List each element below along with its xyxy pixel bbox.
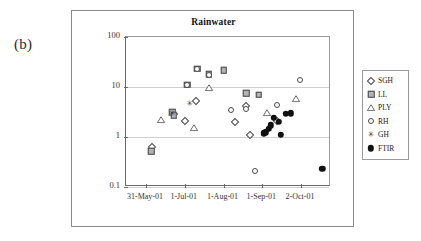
plot-area: ✳✳ (125, 36, 330, 186)
data-point-ll (148, 148, 155, 155)
legend-item-ftir[interactable]: FTIR (366, 142, 406, 156)
x-tick (262, 184, 263, 188)
legend-marker-filled-square-icon (366, 89, 376, 99)
legend-label: GH (378, 130, 389, 139)
legend-label: LL (378, 90, 387, 99)
legend-item-ll[interactable]: LL (366, 88, 406, 102)
data-point-ply (190, 124, 198, 131)
data-point-rh (194, 66, 200, 72)
data-point-rh (228, 107, 234, 113)
legend-item-gh[interactable]: ✳GH (366, 128, 406, 142)
y-tick-label: 1 (80, 131, 120, 140)
y-tick-label: 0.1 (80, 181, 120, 190)
data-point-rh (206, 72, 212, 78)
x-tick (185, 184, 186, 188)
legend-symbol-icon (367, 77, 375, 85)
gridline (126, 137, 329, 138)
gridline (126, 187, 329, 188)
data-point-gh: ✳ (169, 110, 176, 118)
legend-marker-star-icon: ✳ (366, 130, 376, 140)
y-tick-label: 10 (80, 81, 120, 90)
y-tick (124, 87, 128, 88)
y-tick (124, 137, 128, 138)
legend-label: SGH (378, 76, 393, 85)
y-tick (124, 187, 128, 188)
legend-symbol-icon (367, 104, 375, 111)
data-point-rh (184, 82, 190, 88)
data-point-ftir (275, 119, 281, 125)
data-point-rh (252, 168, 258, 174)
chart-title: Rainwater (72, 17, 355, 27)
legend-item-ply[interactable]: PLY (366, 101, 406, 115)
gridline (126, 87, 329, 88)
y-axis-title: (HCl/SO₂) mass ratio (34, 0, 45, 31)
data-point-ftir (288, 110, 294, 116)
legend-item-sgh[interactable]: SGH (366, 74, 406, 88)
data-point-gh: ✳ (186, 100, 193, 108)
legend-symbol-icon (368, 118, 374, 124)
data-point-ll (220, 67, 227, 74)
legend-symbol-icon (368, 145, 374, 151)
data-point-rh (297, 77, 303, 83)
data-point-ply (292, 95, 300, 102)
data-point-rh (243, 106, 249, 112)
legend-marker-open-diamond-icon (366, 76, 376, 86)
x-tick (301, 184, 302, 188)
chart-legend: SGHLLPLYRH✳GHFTIR (362, 70, 409, 160)
x-tick-label: 2-Oct-01 (270, 192, 330, 201)
legend-marker-open-circle-icon (366, 116, 376, 126)
legend-marker-open-triangle-icon (366, 103, 376, 113)
legend-item-rh[interactable]: RH (366, 115, 406, 129)
y-tick-label: 100 (80, 31, 120, 40)
x-tick (146, 184, 147, 188)
chart-frame: Rainwater ✳✳ 1001010.1 31-May-011-Jul-01… (71, 10, 354, 227)
legend-symbol-icon (368, 91, 375, 98)
legend-marker-filled-circle-icon (366, 143, 376, 153)
legend-label: PLY (378, 103, 391, 112)
data-point-ply (205, 84, 213, 91)
data-point-rh (274, 102, 280, 108)
data-point-sgh (231, 118, 239, 126)
panel-label: (b) (14, 36, 32, 53)
x-tick (224, 184, 225, 188)
data-point-sgh (181, 117, 189, 125)
legend-symbol-icon: ✳ (368, 131, 375, 139)
legend-label: RH (378, 117, 388, 126)
figure-container: (b) Rainwater ✳✳ 1001010.1 31-May-011-Ju… (0, 0, 421, 241)
data-point-ply (157, 116, 165, 123)
data-point-ftir (268, 122, 274, 128)
data-point-ll (255, 91, 262, 98)
data-point-ll (243, 90, 250, 97)
legend-label: FTIR (378, 144, 394, 153)
y-tick (124, 37, 128, 38)
data-point-ftir (319, 166, 325, 172)
